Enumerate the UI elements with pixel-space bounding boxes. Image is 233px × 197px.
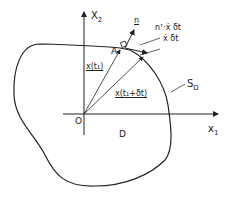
velocity-vector [125,48,147,53]
normal-projection-label: nᵀ·ẋ δt [155,24,181,32]
point-a-label: A [111,47,117,56]
x2-axis-label: X2 [91,11,102,24]
region-label: D [119,130,126,139]
normal-label: n [134,17,139,25]
boundary-label: SD [187,79,199,92]
vector-x-t1-label: x(t₁) [86,63,103,71]
vector-x-t1-dt-label: x(t₁+δt) [115,90,147,98]
x1-axis-label: x1 [208,124,218,137]
origin-label: O [75,117,82,126]
vector-x-t1 [84,50,120,114]
diagram-canvas [0,0,233,197]
velocity-step-label: ẋ δt [163,35,178,43]
